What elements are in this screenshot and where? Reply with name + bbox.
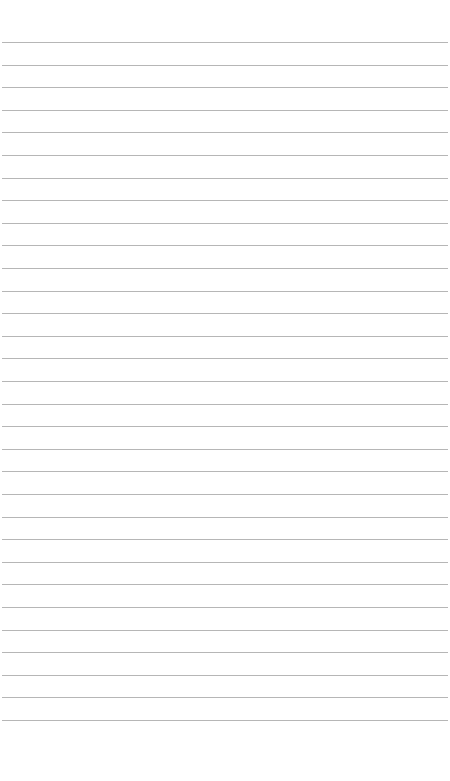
ruled-line (2, 630, 448, 631)
ruled-line (2, 245, 448, 246)
ruled-line (2, 426, 448, 427)
ruled-line (2, 517, 448, 518)
ruled-line (2, 178, 448, 179)
ruled-line (2, 607, 448, 608)
ruled-line (2, 65, 448, 66)
ruled-line (2, 200, 448, 201)
ruled-line (2, 132, 448, 133)
ruled-line (2, 652, 448, 653)
ruled-line (2, 584, 448, 585)
ruled-line (2, 42, 448, 43)
ruled-line (2, 381, 448, 382)
ruled-line (2, 494, 448, 495)
ruled-line (2, 336, 448, 337)
ruled-line (2, 720, 448, 721)
ruled-line (2, 449, 448, 450)
ruled-line (2, 313, 448, 314)
ruled-line (2, 110, 448, 111)
ruled-line (2, 675, 448, 676)
ruled-line (2, 404, 448, 405)
ruled-line (2, 223, 448, 224)
ruled-line (2, 155, 448, 156)
ruled-line (2, 268, 448, 269)
lined-paper-page (0, 0, 450, 781)
ruled-line (2, 471, 448, 472)
ruled-line (2, 291, 448, 292)
ruled-line (2, 87, 448, 88)
ruled-line (2, 562, 448, 563)
ruled-line (2, 539, 448, 540)
ruled-line (2, 358, 448, 359)
ruled-line (2, 697, 448, 698)
